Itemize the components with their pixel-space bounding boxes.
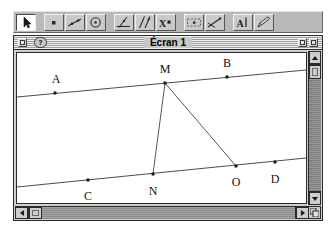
tool-button-pencil-edit[interactable] <box>254 14 274 31</box>
point-N <box>151 172 154 175</box>
geometry-figure: AMBCNOD <box>17 53 306 203</box>
tool-button-parallel-line[interactable] <box>135 14 155 31</box>
title-bar[interactable]: ? Écran 1 <box>14 36 322 50</box>
point-B-label: B <box>223 56 231 70</box>
svg-text:X: X <box>159 17 167 28</box>
point-O-label: O <box>232 175 241 189</box>
tool-button-text-tool[interactable]: A <box>233 14 253 31</box>
tool-button-perpendicular-line[interactable] <box>114 14 134 31</box>
document-window: ? Écran 1 AMBCNOD <box>13 35 323 221</box>
point-O <box>234 164 237 167</box>
svg-text:A: A <box>237 17 245 28</box>
point-D <box>273 160 276 163</box>
point-D-label: D <box>271 172 280 186</box>
point-C <box>86 178 89 181</box>
segment-MN <box>153 83 165 174</box>
scroll-left-arrow-icon[interactable] <box>15 207 28 219</box>
horizontal-scroll-thumb[interactable] <box>29 207 42 219</box>
point-M <box>163 81 166 84</box>
window-title: Écran 1 <box>14 36 322 49</box>
tool-button-measure[interactable] <box>184 14 204 31</box>
window-title-text: Écran 1 <box>144 37 192 48</box>
scroll-down-arrow-icon[interactable] <box>309 192 321 205</box>
horizontal-scrollbar[interactable] <box>15 206 309 219</box>
vertical-scroll-thumb[interactable] <box>309 65 321 79</box>
grow-box-icon[interactable] <box>308 206 321 219</box>
horizontal-scroll-track[interactable] <box>28 207 296 219</box>
zoom-box-icon[interactable] <box>309 38 318 47</box>
vertical-scrollbar[interactable] <box>308 51 321 205</box>
geometry-canvas[interactable]: AMBCNOD <box>16 52 307 204</box>
tool-button-pointer-arrow[interactable] <box>16 14 36 31</box>
tool-palette: X A <box>13 11 323 33</box>
point-A <box>53 91 56 94</box>
segment-MO <box>165 83 236 166</box>
collapse-box-icon[interactable] <box>298 38 307 47</box>
tool-button-point[interactable] <box>44 14 64 31</box>
point-C-label: C <box>84 189 92 203</box>
scroll-up-arrow-icon[interactable] <box>309 51 321 64</box>
tool-button-x-point[interactable]: X <box>156 14 176 31</box>
tool-button-circle[interactable] <box>86 14 106 31</box>
vertical-scroll-track[interactable] <box>309 64 321 192</box>
point-M-label: M <box>160 62 171 76</box>
point-N-label: N <box>149 184 158 198</box>
tool-button-line[interactable] <box>65 14 85 31</box>
line-CD <box>17 158 306 187</box>
point-B <box>225 75 228 78</box>
tool-button-transform[interactable] <box>205 14 225 31</box>
point-A-label: A <box>52 72 61 86</box>
application-root: X A <box>0 0 336 235</box>
